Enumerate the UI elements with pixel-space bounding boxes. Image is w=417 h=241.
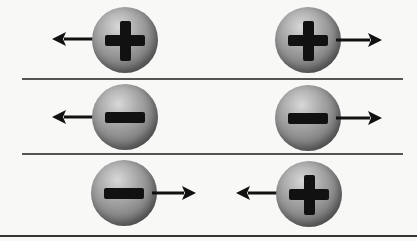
positive-charge-sphere: [275, 7, 341, 73]
minus-icon: [288, 113, 328, 124]
arrow-left-icon: [236, 186, 280, 206]
arrow-left-icon: [52, 110, 98, 130]
arrow-right-icon: [336, 111, 382, 131]
plus-icon-vertical: [120, 21, 131, 61]
bottom-border-line: [0, 235, 417, 237]
plus-icon-vertical: [303, 21, 314, 61]
arrow-right-icon: [336, 33, 382, 53]
positive-charge-sphere: [276, 161, 342, 227]
divider-line: [22, 153, 403, 155]
plus-icon-vertical: [304, 175, 315, 215]
negative-charge-sphere: [91, 160, 157, 226]
divider-line: [22, 78, 403, 80]
negative-charge-sphere: [275, 85, 341, 151]
arrow-right-icon: [152, 186, 196, 206]
minus-icon: [105, 112, 145, 123]
positive-charge-sphere: [92, 7, 158, 73]
minus-icon: [104, 188, 144, 199]
negative-charge-sphere: [92, 84, 158, 150]
